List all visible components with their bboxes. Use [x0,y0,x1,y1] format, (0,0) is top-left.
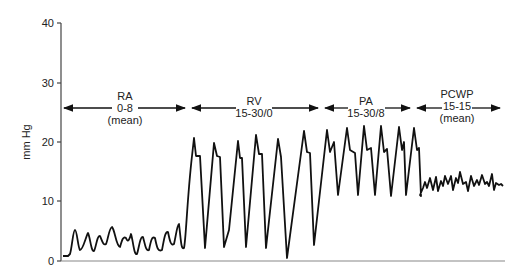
svg-text:(mean): (mean) [440,112,475,124]
y-axis-label: mm Hg [20,124,32,159]
svg-text:15-30/0: 15-30/0 [235,107,272,119]
pcwp-label: PCWP [441,88,474,100]
pressure-trace [63,126,503,258]
svg-text:20: 20 [42,136,54,148]
svg-text:15-30/8: 15-30/8 [347,107,384,119]
svg-text:40: 40 [42,17,54,29]
svg-text:10: 10 [42,195,54,207]
y-axis [57,23,505,261]
pa-label: PA [359,95,374,107]
svg-text:30: 30 [42,77,54,89]
svg-text:0: 0 [48,255,54,267]
region-labels: RA 0-8 (mean) RV 15-30/0 PA 15-30/8 PCWP… [108,88,475,126]
svg-text:15-15: 15-15 [443,100,471,112]
svg-text:(mean): (mean) [108,114,143,126]
y-tick-labels: 40 30 20 10 0 [42,17,54,267]
rv-label: RV [246,95,262,107]
svg-text:0-8: 0-8 [117,102,133,114]
ra-label: RA [117,90,133,102]
pressure-waveform-chart: 40 30 20 10 0 mm Hg RA 0-8 (mean) RV 15-… [0,0,526,279]
